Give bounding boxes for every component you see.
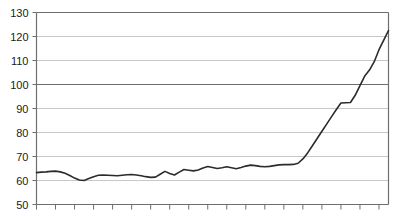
y-tick-label-110: 110 (11, 55, 29, 67)
y-tick-label-60: 60 (16, 175, 28, 187)
line-chart: 5060708090100110120130 (0, 0, 400, 218)
x-tick-mark-group (37, 205, 379, 210)
y-tick-label-90: 90 (16, 103, 28, 115)
y-tick-label-50: 50 (16, 199, 28, 211)
data-series-line (37, 31, 389, 181)
y-tick-label-70: 70 (16, 151, 28, 163)
y-tick-label-100: 100 (10, 79, 28, 91)
y-tick-label-group: 5060708090100110120130 (10, 7, 28, 211)
y-tick-label-80: 80 (16, 127, 28, 139)
gridline-group (37, 13, 389, 181)
y-tick-label-130: 130 (10, 7, 28, 19)
chart-canvas: 5060708090100110120130 (0, 0, 400, 218)
data-series-group (37, 31, 389, 181)
y-tick-label-120: 120 (10, 31, 28, 43)
